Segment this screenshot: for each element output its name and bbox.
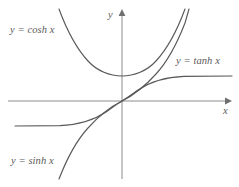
sinh-curve-label: y = sinh x (11, 155, 54, 166)
y-axis-arrowhead (119, 9, 126, 16)
y-axis-label: y (108, 9, 113, 20)
hyperbolic-functions-figure: y = cosh x y = tanh x y = sinh x y x (0, 0, 239, 187)
cosh-curve-label: y = cosh x (10, 24, 55, 35)
x-axis-arrowhead (225, 98, 232, 105)
tanh-curve-label: y = tanh x (176, 55, 220, 66)
x-axis-label: x (223, 105, 228, 116)
sinh-curve (59, 9, 189, 179)
